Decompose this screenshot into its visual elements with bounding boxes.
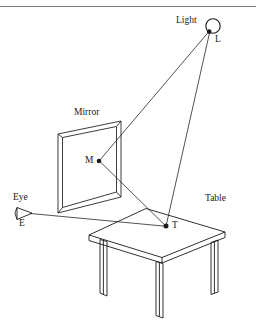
table-point-marker <box>164 224 169 229</box>
ray-light-to-mirror <box>99 32 208 160</box>
table-top-edge-front-right <box>162 232 225 263</box>
light-bulb-group <box>206 19 220 34</box>
table-top-surface <box>89 209 225 258</box>
ray-eye-to-table <box>31 214 166 227</box>
mirror-frame-outer <box>58 121 121 213</box>
label-mirror-point: M <box>85 156 93 166</box>
table-group <box>89 209 225 319</box>
mirror-frame-inner <box>63 127 117 208</box>
mirror-corner-bevel-br <box>117 192 122 197</box>
ray-diagram-figure: Light L Mirror M Eye E Table T <box>0 0 256 324</box>
label-light-point: L <box>215 35 221 45</box>
label-eye: Eye <box>13 193 28 203</box>
label-table-point: T <box>172 221 178 231</box>
mirror-corner-bevel-tl <box>58 134 63 138</box>
mirror-group <box>58 121 121 213</box>
label-eye-point: E <box>19 219 25 229</box>
label-mirror: Mirror <box>74 108 99 118</box>
label-light: Light <box>176 16 197 26</box>
ray-light-to-table <box>166 33 209 226</box>
ray-diagram-canvas <box>0 0 256 324</box>
label-table: Table <box>205 194 226 204</box>
mirror-point-marker <box>97 159 102 164</box>
